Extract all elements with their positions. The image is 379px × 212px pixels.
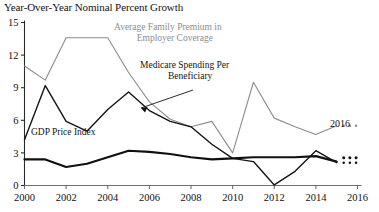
x-tick-label: 2004 [97, 192, 119, 203]
series-end-dot [348, 156, 351, 159]
y-tick-label: 0 [13, 180, 18, 191]
series-end-dot [349, 161, 352, 164]
end-year-label: 2016 [330, 118, 350, 129]
x-tick-label: 2000 [14, 192, 35, 203]
series-end-dot [355, 156, 358, 159]
y-tick-label: 3 [13, 148, 18, 159]
axes [25, 21, 362, 186]
x-tick-label: 2006 [139, 192, 160, 203]
y-axis-ticks: 03691215 [8, 17, 25, 191]
series-label-line-1: Medicare Spending Per [140, 60, 229, 71]
x-tick-label: 2012 [264, 192, 285, 203]
series-end-dot [342, 156, 345, 159]
x-tick-label: 2010 [222, 192, 243, 203]
x-tick-label: 2008 [181, 192, 202, 203]
series-label-line-1: Average Family Premium in [114, 22, 222, 33]
x-axis-ticks: 200020022004200620082010201220142016 [14, 186, 368, 203]
series-end-dot [355, 124, 358, 127]
series-line [25, 151, 337, 167]
y-tick-label: 12 [8, 50, 19, 61]
x-tick-label: 2016 [347, 192, 368, 203]
series-label-gdp-price-index: GDP Price Index [31, 127, 96, 138]
series-label-line-2: Employer Coverage [114, 33, 222, 44]
x-tick-label: 2014 [305, 192, 327, 203]
chart-figure: Year-Over-Year Nominal Percent Growth 03… [0, 0, 379, 212]
y-tick-label: 9 [13, 82, 18, 93]
series-end-dot [355, 161, 358, 164]
chart-title: Year-Over-Year Nominal Percent Growth [4, 1, 183, 13]
x-tick-label: 2002 [56, 192, 77, 203]
end-year-label-text: 2016 [330, 118, 350, 129]
series-label-line-2: Beneficiary [140, 71, 229, 82]
series-end-dot [342, 161, 345, 164]
y-tick-label: 6 [13, 115, 18, 126]
series-label-line-1: GDP Price Index [31, 127, 96, 138]
y-tick-label: 15 [8, 17, 19, 28]
leader-line [141, 90, 193, 108]
series-label-average-family-premium: Average Family Premium in Employer Cover… [114, 22, 222, 44]
series-label-medicare-spending: Medicare Spending Per Beneficiary [140, 60, 229, 82]
